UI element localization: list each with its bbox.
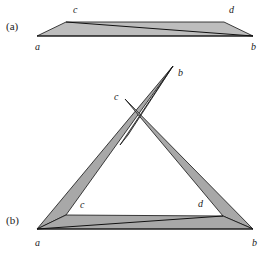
vertex-a-label: a xyxy=(35,41,40,52)
vertex-b-top-label: b xyxy=(178,67,183,78)
part-a-diagram: (a) c d a b xyxy=(6,4,256,52)
part-b-label: (b) xyxy=(6,214,19,227)
vertex-d-label: d xyxy=(229,4,235,15)
vertex-b-label: b xyxy=(252,237,257,248)
part-a-label: (a) xyxy=(6,20,19,33)
right-arm xyxy=(125,99,253,229)
vertex-b-label: b xyxy=(251,41,256,52)
vertex-a-label: a xyxy=(35,237,40,248)
vertex-c-label: c xyxy=(80,199,85,210)
vertex-c-label: c xyxy=(73,4,78,15)
part-b-diagram: (b) b c c d a b xyxy=(6,66,257,248)
vertex-c-top-label: c xyxy=(114,91,119,102)
figure: (a) c d a b (b) b c c d a b xyxy=(0,0,269,257)
vertex-d-label: d xyxy=(198,198,204,209)
left-arm xyxy=(37,66,173,229)
